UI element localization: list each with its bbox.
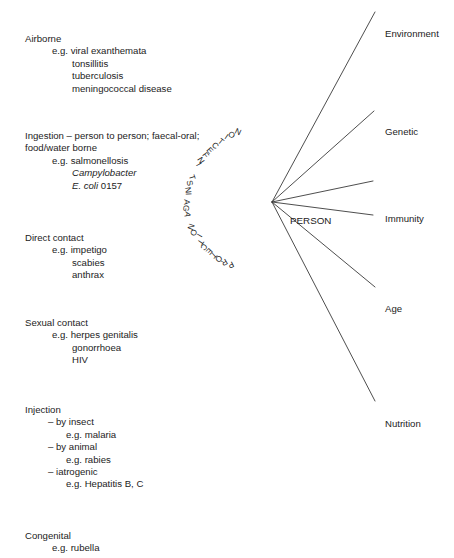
factor-label-environment: Environment — [385, 28, 439, 39]
route-subgroup-example: e.g. Hepatitis B, C — [0, 478, 250, 490]
fan-rays-svg — [240, 0, 454, 558]
route-example: e.g. viral exanthemata — [0, 45, 250, 57]
factor-label-immunity: Immunity — [385, 213, 424, 224]
route-example: e.g. salmonellosis — [0, 155, 250, 167]
route-subgroup: – by animal — [0, 441, 250, 453]
route-subgroup-example: e.g. malaria — [0, 429, 250, 441]
route-subgroup: – by insect — [0, 416, 250, 428]
ray-nutrition — [272, 202, 375, 401]
route-example: e.g. rubella — [0, 542, 250, 554]
transmission-routes-column: Airborne e.g. viral exanthemata tonsilli… — [0, 0, 250, 558]
route-title: Congenital — [0, 530, 250, 542]
route-title: Direct contact — [0, 232, 250, 244]
route-item: anthrax — [0, 269, 250, 281]
ray-immunity-lower — [272, 202, 373, 215]
factor-label-age: Age — [385, 303, 402, 314]
route-item: tuberculosis — [0, 70, 250, 82]
route-item: meningococcal disease — [0, 83, 250, 95]
ray-environment — [272, 12, 375, 202]
route-subgroup-example: e.g. rabies — [0, 454, 250, 466]
factor-label-nutrition: Nutrition — [385, 418, 421, 429]
page-root: Transmission route Airborne e.g. viral e… — [0, 0, 454, 558]
route-title: Airborne — [0, 33, 250, 45]
route-subgroup: – iatrogenic — [0, 466, 250, 478]
route-title: Injection — [0, 404, 250, 416]
arc-label-char: N — [183, 186, 193, 193]
route-block-congenital: Congenital e.g. rubella — [0, 530, 250, 555]
person-label: PERSON — [290, 215, 331, 226]
route-title: Sexual contact — [0, 317, 250, 329]
route-example: e.g. herpes genitalis — [0, 329, 250, 341]
route-item: Campylobacter — [0, 167, 250, 179]
arc-label-char: G — [182, 205, 192, 212]
ray-genetic — [272, 111, 374, 202]
arc-label-char: A — [182, 199, 191, 205]
route-item: tonsillitis — [0, 58, 250, 70]
ray-immunity-upper — [272, 181, 373, 202]
route-item: scabies — [0, 257, 250, 269]
route-item: gonorrhoea — [0, 342, 250, 354]
protection-fan-diagram: PROTECTION AGAINST INFECTION PERSON Envi… — [240, 0, 454, 558]
route-item: HIV — [0, 354, 250, 366]
route-block-injection: Injection – by insect e.g. malaria – by … — [0, 404, 250, 491]
factor-label-genetic: Genetic — [385, 126, 418, 137]
route-item: E. coli 0157 — [0, 180, 250, 192]
route-block-airborne: Airborne e.g. viral exanthemata tonsilli… — [0, 33, 250, 95]
route-block-ingestion: Ingestion – person to person; faecal-ora… — [0, 130, 250, 192]
route-block-sexual-contact: Sexual contact e.g. herpes genitalis gon… — [0, 317, 250, 367]
